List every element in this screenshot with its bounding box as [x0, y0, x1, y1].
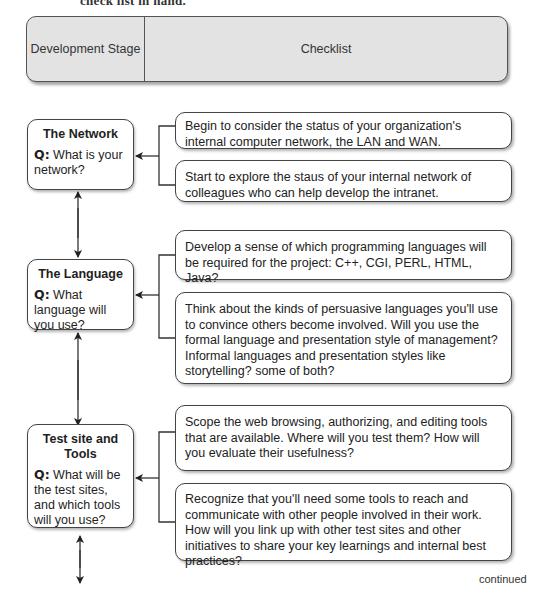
stage-box-language: The Language Q: What language will you u… — [27, 259, 134, 330]
checklist-item: Begin to consider the status of your org… — [175, 112, 512, 149]
checklist-item: Scope the web browsing, authorizing, and… — [175, 405, 512, 471]
stage-title: The Network — [34, 127, 127, 142]
q-label: Q: — [34, 147, 50, 162]
stage-title: Test site and Tools — [34, 432, 127, 462]
continued-label: continued — [479, 573, 527, 585]
checklist-item: Develop a sense of which programming lan… — [175, 230, 512, 280]
stage-box-network: The Network Q: What is your network? — [27, 119, 134, 190]
stage-question: Q: What will be the test sites, and whic… — [34, 467, 127, 528]
stage-title: The Language — [34, 267, 127, 282]
stage-question: Q: What is your network? — [34, 147, 127, 178]
stage-box-test-site-tools: Test site and Tools Q: What will be the … — [27, 424, 134, 528]
stage-question: Q: What language will you use? — [34, 287, 127, 333]
q-label: Q: — [34, 467, 50, 482]
checklist-item: Think about the kinds of persuasive lang… — [175, 292, 512, 384]
checklist-item: Recognize that you'll need some tools to… — [175, 483, 512, 561]
q-label: Q: — [34, 287, 50, 302]
checklist-item: Start to explore the staus of your inter… — [175, 160, 512, 202]
